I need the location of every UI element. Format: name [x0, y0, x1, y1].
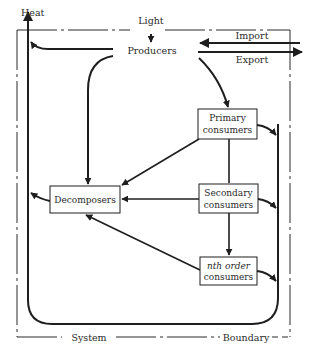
nth-line1: nth order [207, 261, 251, 271]
light-label: Light [138, 15, 164, 26]
decomposers-label: Decomposers [54, 195, 116, 205]
secondary-line1: Secondary [204, 188, 253, 198]
node-decomposers: Decomposers [50, 186, 120, 213]
arrow-nth-to-heat [257, 271, 276, 281]
system-label: System [71, 332, 106, 343]
producers-label: Producers [127, 45, 176, 56]
heat-label: Heat [21, 7, 45, 18]
arrow-producers-to-decomposers [88, 56, 113, 184]
arrow-primary-to-decomposers [122, 139, 199, 185]
arrow-nth-to-decomposers [86, 215, 200, 270]
node-primary-consumers: Primary consumers [198, 109, 257, 139]
node-nth-order-consumers: nth order consumers [200, 257, 257, 285]
arrow-secondary-to-heat [258, 199, 276, 208]
primary-line2: consumers [203, 125, 253, 135]
ecosystem-flow-diagram: Primary consumers Secondary consumers nt… [0, 0, 311, 350]
secondary-line2: consumers [204, 200, 254, 210]
boundary-label: Boundary [223, 332, 270, 343]
primary-line1: Primary [209, 113, 246, 123]
import-label: Import [236, 30, 269, 41]
arrow-primary-to-heat [257, 125, 276, 135]
export-label: Export [236, 54, 269, 65]
arrow-producers-to-heat [31, 42, 113, 49]
node-secondary-consumers: Secondary consumers [199, 184, 258, 213]
arrow-producers-to-primary [199, 58, 228, 107]
arrow-decomposers-to-heat [31, 193, 50, 201]
nth-line2: consumers [204, 272, 254, 282]
